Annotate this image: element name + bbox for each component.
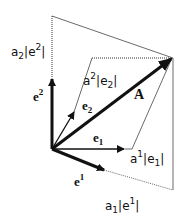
vector-e-sup1 [52, 149, 104, 170]
label-a-sup1-e-sub1: a1|e1| [130, 150, 164, 168]
label-a1-e-sup1: a1|e1| [105, 197, 139, 215]
vector-e-sub2 [52, 112, 74, 149]
label-e-sup1: e1 [74, 173, 84, 188]
label-a-sup2-e-sub2: a2|e2| [83, 72, 117, 90]
diagram-canvas [0, 0, 185, 224]
dotted-line-bottom-diagonal [104, 170, 173, 190]
label-e-sup2: e2 [33, 88, 43, 103]
line-top-diagonal [52, 16, 173, 58]
vector-decomposition-diagram: a2|e2| e2 a2|e2| e2 A e1 a1|e1| e1 a1|e1… [0, 0, 185, 224]
label-a2-e-sup2: a2|e2| [11, 43, 45, 61]
label-e-sub2: e2 [82, 99, 92, 115]
label-A: A [134, 88, 144, 102]
label-e-sub1: e1 [93, 131, 103, 147]
